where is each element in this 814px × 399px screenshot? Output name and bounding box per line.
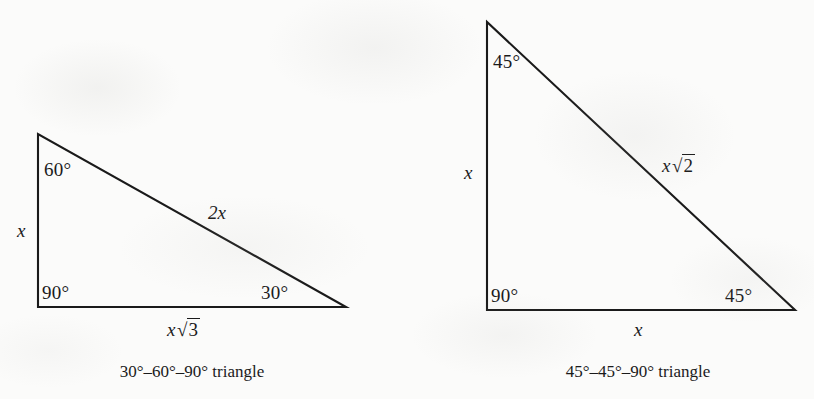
radicand-right: 2 [682,154,695,175]
triangle-45-45-90-outline [487,22,795,310]
side-label-x-horizontal-leg-right-triangle: x [634,320,642,339]
radical-sign-right: √2 [671,154,695,175]
angle-label-45-base: 45° [725,286,752,305]
side-label-x-vertical-leg-right-triangle: x [464,163,472,182]
angle-label-30: 30° [261,283,288,302]
angle-label-45-apex: 45° [493,52,520,71]
radical-coefficient-left: x [167,320,175,339]
geometry-figure-canvas [0,0,814,399]
radical-coefficient-right: x [662,156,670,175]
side-label-x-sqrt-2: x√2 [662,154,695,175]
side-label-x-vertical-leg-left-triangle: x [17,221,25,240]
radical-glyph-right: √ [672,155,682,176]
caption-45-45-90: 45°–45°–90° triangle [446,363,814,380]
caption-30-60-90: 30°–60°–90° triangle [0,363,384,380]
radical-glyph-left: √ [177,319,187,340]
radical-sign-left: √3 [176,318,200,339]
angle-label-90-left-triangle: 90° [42,283,69,302]
angle-label-60: 60° [44,160,71,179]
triangle-30-60-90-outline [38,134,346,307]
angle-label-90-right-triangle: 90° [491,286,518,305]
radicand-left: 3 [187,318,200,339]
side-label-x-sqrt-3: x√3 [167,318,200,339]
side-label-2x-hypotenuse: 2x [208,203,226,222]
